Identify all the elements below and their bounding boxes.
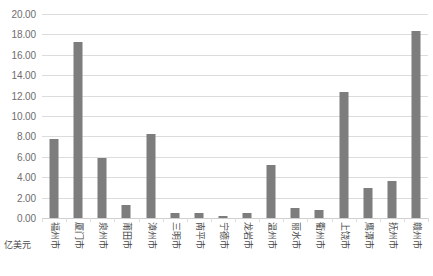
x-category-label: 莆田市: [122, 222, 131, 249]
x-category-slot: 龙岩市: [235, 220, 259, 276]
y-tick-label: 0.00: [17, 213, 36, 224]
x-tickmark: [428, 218, 429, 222]
bar[interactable]: [315, 210, 324, 218]
x-category-slot: 南平市: [187, 220, 211, 276]
x-category-label: 厦门市: [74, 222, 83, 249]
x-category-label: 丽水市: [291, 222, 300, 249]
bar-slot: [163, 14, 187, 218]
bar-slot: [259, 14, 283, 218]
x-category-slot: 衢州市: [307, 220, 331, 276]
bar[interactable]: [74, 42, 83, 218]
x-category-label: 赣州市: [411, 222, 420, 249]
x-category-slot: 鹰潭市: [356, 220, 380, 276]
bar-chart: 0.002.004.006.008.0010.0012.0014.0016.00…: [0, 0, 433, 276]
y-tick-label: 8.00: [17, 131, 36, 142]
bar-slot: [404, 14, 428, 218]
x-category-label: 抚州市: [387, 222, 396, 249]
y-axis: 0.002.004.006.008.0010.0012.0014.0016.00…: [0, 0, 40, 218]
bar-slot: [187, 14, 211, 218]
y-tick-label: 18.00: [11, 29, 36, 40]
bar[interactable]: [122, 205, 131, 218]
bar-slot: [211, 14, 235, 218]
bars-layer: [42, 14, 428, 218]
x-category-label: 鹰潭市: [363, 222, 372, 249]
bar[interactable]: [291, 208, 300, 218]
bar-slot: [332, 14, 356, 218]
x-category-slot: 漳州市: [139, 220, 163, 276]
bar[interactable]: [267, 165, 276, 218]
bar[interactable]: [387, 181, 396, 218]
bar[interactable]: [363, 188, 372, 218]
x-category-label: 衢州市: [315, 222, 324, 249]
x-category-slot: 宁德市: [211, 220, 235, 276]
bar-slot: [307, 14, 331, 218]
plot-area: [42, 14, 428, 218]
x-category-label: 福州市: [50, 222, 59, 249]
unit-legend-label: 亿美元: [4, 238, 31, 251]
bar-slot: [90, 14, 114, 218]
y-tick-label: 10.00: [11, 111, 36, 122]
bar[interactable]: [98, 158, 107, 218]
y-tick-label: 16.00: [11, 49, 36, 60]
bar-slot: [380, 14, 404, 218]
x-category-label: 泉州市: [98, 222, 107, 249]
bar-slot: [114, 14, 138, 218]
bar-slot: [42, 14, 66, 218]
x-category-slot: 泉州市: [90, 220, 114, 276]
bar[interactable]: [339, 92, 348, 218]
x-category-slot: 福州市: [42, 220, 66, 276]
x-category-slot: 温州市: [259, 220, 283, 276]
x-category-label: 漳州市: [146, 222, 155, 249]
x-category-label: 温州市: [267, 222, 276, 249]
x-category-label: 南平市: [194, 222, 203, 249]
x-category-slot: 上饶市: [332, 220, 356, 276]
x-category-slot: 丽水市: [283, 220, 307, 276]
x-axis: 福州市厦门市泉州市莆田市漳州市三明市南平市宁德市龙岩市温州市丽水市衢州市上饶市鹰…: [42, 218, 428, 276]
x-category-label: 上饶市: [339, 222, 348, 249]
x-category-label: 三明市: [170, 222, 179, 249]
bar-slot: [66, 14, 90, 218]
x-category-slot: 厦门市: [66, 220, 90, 276]
x-category-label: 龙岩市: [243, 222, 252, 249]
bar[interactable]: [411, 31, 420, 218]
x-category-slot: 赣州市: [404, 220, 428, 276]
x-category-slot: 莆田市: [114, 220, 138, 276]
bar[interactable]: [146, 134, 155, 218]
y-tick-label: 20.00: [11, 9, 36, 20]
y-tick-label: 4.00: [17, 172, 36, 183]
x-category-slot: 三明市: [163, 220, 187, 276]
bar-slot: [235, 14, 259, 218]
bar-slot: [356, 14, 380, 218]
y-tick-label: 6.00: [17, 151, 36, 162]
y-tick-label: 12.00: [11, 90, 36, 101]
x-category-label: 宁德市: [218, 222, 227, 249]
y-tick-label: 2.00: [17, 192, 36, 203]
bar-slot: [139, 14, 163, 218]
y-tick-label: 14.00: [11, 70, 36, 81]
bar-slot: [283, 14, 307, 218]
x-category-slot: 抚州市: [380, 220, 404, 276]
bar[interactable]: [50, 139, 59, 218]
